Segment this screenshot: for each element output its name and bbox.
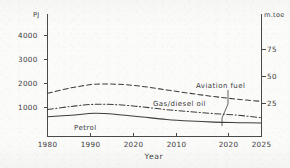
right-tick-label: 50 — [267, 72, 277, 81]
series-label-aviation-fuel: Aviation fuel — [196, 82, 245, 90]
chart-figure: PJ m.toe 4000 3000 2000 1000 75 50 25 — [0, 0, 290, 168]
x-tick-label: 2010 — [167, 140, 187, 149]
right-tick-label: 25 — [267, 99, 277, 108]
x-tick-label: 1990 — [81, 140, 101, 149]
left-axis-unit-label: PJ — [33, 11, 40, 19]
left-tick-label: 3000 — [18, 55, 38, 64]
x-tick-label: 1980 — [38, 140, 58, 149]
left-axis-ticks: 4000 3000 2000 1000 — [18, 31, 48, 112]
left-tick-label: 1000 — [18, 103, 38, 112]
x-tick-label: 2020 — [219, 140, 239, 149]
x-tick-label: 2020 — [124, 140, 144, 149]
right-tick-label: 75 — [267, 45, 277, 54]
left-tick-label: 2000 — [18, 79, 38, 88]
left-tick-label: 4000 — [18, 31, 38, 40]
x-axis-ticks: 1980 1990 2020 2010 2020 2025 — [38, 133, 272, 149]
line-chart: PJ m.toe 4000 3000 2000 1000 75 50 25 — [0, 0, 290, 168]
right-axis-unit-label: m.toe — [264, 11, 285, 19]
aviation-fuel-leader-line — [222, 90, 228, 126]
series-label-petrol: Petrol — [74, 124, 97, 132]
right-axis-ticks: 75 50 25 — [262, 45, 277, 108]
x-axis-title: Year — [144, 152, 164, 161]
x-tick-label: 2025 — [252, 140, 272, 149]
series-label-gas-diesel-oil: Gas/diesel oil — [153, 100, 206, 108]
